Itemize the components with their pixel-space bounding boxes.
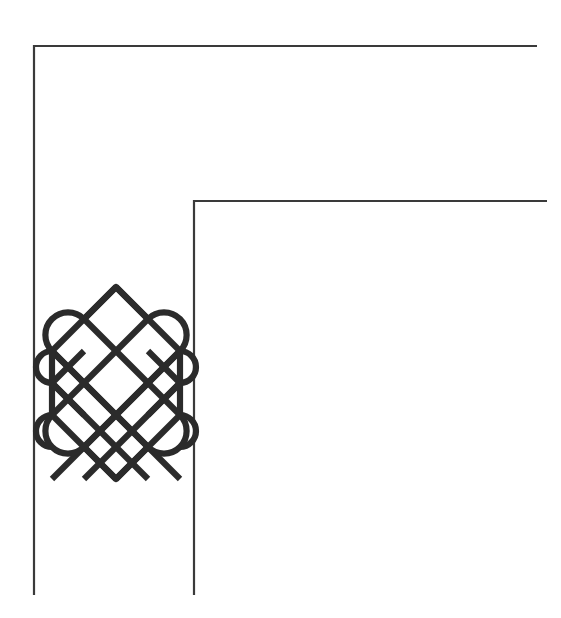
artboard: Decorative Corner Ornament Line drawing … [0,0,561,618]
corner-ornament-artwork [0,0,561,618]
paper-background [0,0,561,618]
